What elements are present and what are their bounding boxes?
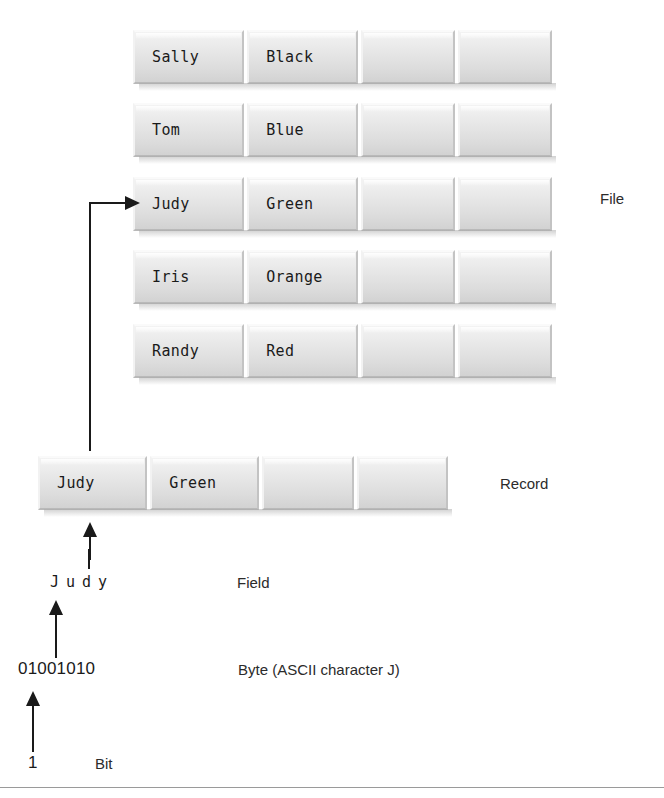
file-row-1: Sally Black: [133, 30, 552, 84]
file-row-2: Tom Blue: [133, 103, 552, 157]
field-cell-name: Sally: [133, 30, 244, 84]
field-cell-name: Randy: [133, 324, 244, 378]
field-cell-color: Green: [247, 177, 358, 231]
field-cell-color: Black: [247, 30, 358, 84]
cell-text: Green: [249, 195, 313, 213]
field-cell-empty-2: [357, 456, 448, 510]
cell-text: Randy: [135, 342, 199, 360]
byte-value: 01001010: [18, 659, 95, 679]
field-value: Judy: [50, 573, 114, 591]
cell-text: Red: [249, 342, 294, 360]
byte-label: Byte (ASCII character J): [238, 661, 400, 678]
cell-text: Sally: [135, 48, 199, 66]
cell-text: Blue: [249, 121, 304, 139]
file-row-3: Judy Green: [133, 177, 552, 231]
field-cell-empty-2: [458, 30, 552, 84]
field-cell-name: Iris: [133, 250, 244, 304]
field-cell-empty-1: [361, 324, 454, 378]
bit-to-byte-arrowhead-icon: [26, 691, 40, 706]
byte-to-field-arrowhead-icon: [49, 600, 63, 615]
field-cell-color: Green: [150, 456, 259, 510]
field-cell-name: Tom: [133, 103, 244, 157]
field-cell-color: Blue: [247, 103, 358, 157]
cell-text: Iris: [135, 268, 190, 286]
field-cell-empty-1: [361, 30, 454, 84]
bit-label: Bit: [95, 755, 113, 772]
bit-to-byte-connector-vertical: [32, 705, 34, 752]
field-cell-empty-2: [458, 324, 552, 378]
field-cell-color: Orange: [247, 250, 358, 304]
field-cell-empty-2: [458, 250, 552, 304]
file-row-4: Iris Orange: [133, 250, 552, 304]
cell-text: Judy: [135, 195, 190, 213]
cell-text: Orange: [249, 268, 323, 286]
field-label: Field: [237, 574, 270, 591]
record-row: Judy Green: [38, 456, 448, 510]
file-row-5: Randy Red: [133, 324, 552, 378]
cell-text: Black: [249, 48, 313, 66]
field-cell-name: Judy: [133, 177, 244, 231]
file-label: File: [600, 190, 624, 207]
record-to-file-arrowhead-icon: [125, 196, 140, 210]
byte-to-field-connector-vertical: [55, 614, 57, 658]
field-cell-empty-1: [262, 456, 353, 510]
field-cell-empty-1: [361, 103, 454, 157]
field-cell-empty-2: [458, 177, 552, 231]
diagram-canvas: Sally Black Tom Blue Judy Green: [0, 0, 664, 798]
field-to-record-arrowhead-icon: [83, 522, 97, 537]
record-to-file-connector-vertical: [89, 202, 91, 451]
cell-text: Judy: [40, 474, 95, 492]
field-tick-line: [88, 549, 90, 569]
field-cell-empty-1: [361, 250, 454, 304]
bottom-divider: [0, 787, 664, 788]
cell-text: Green: [152, 474, 216, 492]
field-cell-empty-2: [458, 103, 552, 157]
cell-text: Tom: [135, 121, 180, 139]
field-cell-empty-1: [361, 177, 454, 231]
record-label: Record: [500, 475, 548, 492]
bit-value: 1: [28, 753, 38, 773]
field-cell-name: Judy: [38, 456, 147, 510]
field-cell-color: Red: [247, 324, 358, 378]
record-to-file-connector-horizontal: [89, 202, 127, 204]
